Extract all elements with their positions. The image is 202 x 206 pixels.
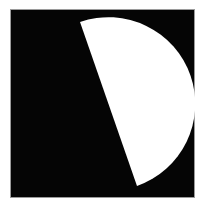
half-disc-shape (80, 17, 195, 186)
half-disc-shape-layer (0, 0, 202, 206)
image-canvas (0, 0, 202, 206)
